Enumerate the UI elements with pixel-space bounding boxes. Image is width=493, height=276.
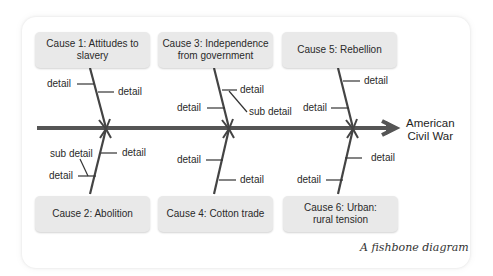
- cause-6-detail-right: detail: [371, 152, 395, 164]
- effect-label: American Civil War: [406, 117, 455, 143]
- cause-5-box: Cause 5: Rebellion: [282, 32, 397, 68]
- effect-line2: Civil War: [408, 130, 454, 142]
- cause-5-label: Cause 5: Rebellion: [297, 44, 382, 56]
- cause-1-detail-right: detail: [118, 86, 142, 98]
- cause-2-box: Cause 2: Abolition: [35, 196, 150, 232]
- cause-3-line1: Cause 3: Independence: [162, 38, 268, 49]
- cause-6-line2: rural tension: [313, 214, 368, 225]
- cause-4-label: Cause 4: Cotton trade: [167, 208, 265, 220]
- cause-1-box: Cause 1: Attitudes toslavery: [35, 32, 150, 68]
- cause-2-label: Cause 2: Abolition: [52, 208, 133, 220]
- cause-5-detail-left: detail: [303, 102, 327, 114]
- cause-1-detail-left: detail: [47, 78, 71, 90]
- cause-3-box: Cause 3: Independencefrom government: [158, 32, 273, 68]
- cause-5-detail-right: detail: [364, 75, 388, 87]
- cause-1-line2: slavery: [77, 50, 109, 61]
- cause-3-line2: from government: [178, 50, 254, 61]
- cause-3-detail-left: detail: [177, 102, 201, 114]
- diagram-caption: A fishbone diagram: [360, 241, 469, 254]
- cause-4-detail-left: detail: [177, 154, 201, 166]
- cause-6-box: Cause 6: Urban:rural tension: [283, 196, 398, 232]
- effect-line1: American: [406, 117, 455, 129]
- cause-4-box: Cause 4: Cotton trade: [158, 196, 273, 232]
- cause-2-detail-right: detail: [122, 147, 146, 159]
- cause-4-detail-right: detail: [240, 174, 264, 186]
- cause-3-detail-right: detail: [240, 84, 264, 96]
- cause-2-sub-detail: sub detail: [50, 148, 93, 160]
- cause-2-detail-left: detail: [49, 170, 73, 182]
- cause-1-line1: Cause 1: Attitudes to: [46, 38, 138, 49]
- cause-3-sub-detail: sub detail: [249, 106, 292, 118]
- cause-6-line1: Cause 6: Urban:: [304, 202, 377, 213]
- cause-6-detail-left: detail: [297, 174, 321, 186]
